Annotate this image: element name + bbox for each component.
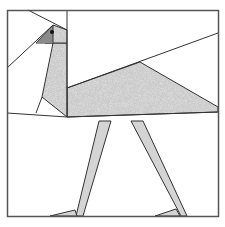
eye-icon: [50, 30, 54, 34]
quilt-block-canvas: [0, 0, 225, 227]
bird-quilt-diagram: [0, 0, 225, 227]
